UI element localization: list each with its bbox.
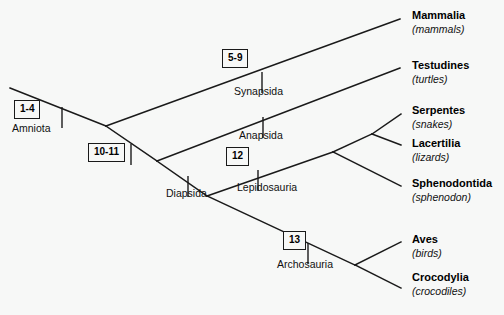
clade-label-archosauria: Archosauria xyxy=(277,259,333,270)
taxon-common-name: (lizards) xyxy=(412,152,460,163)
character-box-5-9[interactable]: 5-9 xyxy=(222,49,248,68)
amniota-to-synapsida xyxy=(106,19,400,126)
taxon-sphenodontida: Sphenodontida (sphenodon) xyxy=(412,178,492,203)
taxon-name: Aves xyxy=(412,234,442,246)
character-box-12[interactable]: 12 xyxy=(226,147,249,166)
cladogram-figure: 1-4 5-9 10-11 12 13 Amniota Synapsida An… xyxy=(0,0,504,315)
taxon-name: Mammalia xyxy=(412,10,465,22)
character-box-10-11[interactable]: 10-11 xyxy=(88,143,125,162)
character-box-1-4[interactable]: 1-4 xyxy=(14,100,40,119)
taxon-common-name: (turtles) xyxy=(412,74,469,85)
taxon-aves: Aves (birds) xyxy=(412,234,442,259)
clade-label-amniota: Amniota xyxy=(12,123,51,134)
squamata-to-serpentes xyxy=(372,114,401,134)
taxon-common-name: (snakes) xyxy=(412,119,465,130)
taxon-mammalia: Mammalia (mammals) xyxy=(412,10,465,35)
taxon-common-name: (birds) xyxy=(412,248,442,259)
clade-label-diapsida: Diapsida xyxy=(166,188,207,199)
taxon-name: Lacertilia xyxy=(412,138,460,150)
clade-label-lepidosauria: Lepidosauria xyxy=(237,182,297,193)
taxon-name: Crocodylia xyxy=(412,272,469,284)
taxon-crocodylia: Crocodylia (crocodiles) xyxy=(412,272,469,297)
taxon-common-name: (sphenodon) xyxy=(412,192,492,203)
taxon-serpentes: Serpentes (snakes) xyxy=(412,105,465,130)
reptilia-to-anapsida xyxy=(157,68,400,161)
taxon-name: Serpentes xyxy=(412,105,465,117)
taxon-common-name: (crocodiles) xyxy=(412,286,469,297)
taxon-lacertilia: Lacertilia (lizards) xyxy=(412,138,460,163)
taxon-testudines: Testudines (turtles) xyxy=(412,60,469,85)
diapsida-to-archosauria xyxy=(207,196,355,265)
lepidosauria-to-squamata xyxy=(333,134,372,152)
taxon-name: Testudines xyxy=(412,60,469,72)
character-box-13[interactable]: 13 xyxy=(283,231,306,250)
clade-label-anapsida: Anapsida xyxy=(239,130,283,141)
taxon-common-name: (mammals) xyxy=(412,24,465,35)
clade-label-synapsida: Synapsida xyxy=(234,86,283,97)
taxon-name: Sphenodontida xyxy=(412,178,492,190)
archosauria-to-aves xyxy=(355,242,401,265)
archosauria-to-crocodylia xyxy=(355,265,401,288)
squamata-to-lacertilia xyxy=(372,134,401,145)
lepidosauria-to-sphenodontida xyxy=(333,152,401,186)
